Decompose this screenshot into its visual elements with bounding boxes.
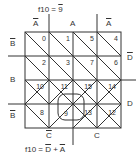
cell-1: 1 [66, 35, 70, 42]
cell-4: 4 [114, 35, 118, 42]
cell-5: 5 [90, 35, 94, 42]
function-title-bottom: f10 = D + A [25, 145, 65, 154]
cell-6: 6 [114, 59, 118, 66]
row-label-not-b-bottom: B [10, 112, 15, 120]
cell-12: 12 [108, 109, 116, 116]
cell-13: 13 [84, 109, 92, 116]
cell-15: 15 [84, 83, 92, 90]
cell-9: 9 [64, 110, 68, 117]
cell-11: 11 [61, 83, 68, 90]
row-label-d: D [127, 100, 133, 108]
col-label-c: C [94, 132, 100, 140]
cell-2: 2 [42, 59, 46, 66]
row-label-not-b-top: B [10, 40, 15, 48]
function-title-top: f10 = 9 [38, 5, 63, 14]
cell-10: 10 [36, 83, 44, 90]
col-label-a: A [70, 20, 75, 28]
cell-3: 3 [66, 59, 70, 66]
col-label-not-c: C [46, 132, 52, 140]
cell-8: 8 [40, 109, 44, 116]
row-label-b: B [10, 76, 15, 84]
col-label-not-a-left: A [33, 20, 38, 28]
row-label-not-d: D [127, 54, 133, 62]
col-label-not-a-right: A [106, 20, 111, 28]
cell-0: 0 [42, 35, 46, 42]
cell-14: 14 [108, 83, 116, 90]
group-loop-9 [58, 94, 84, 120]
cell-7: 7 [90, 59, 94, 66]
